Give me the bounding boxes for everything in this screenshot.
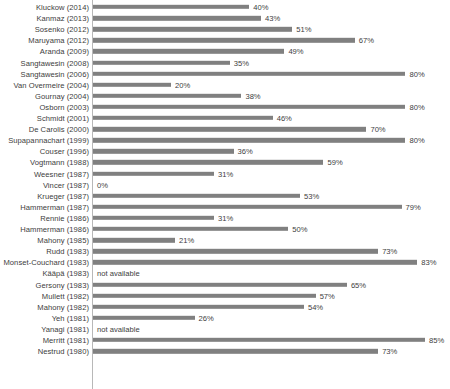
bar-row: Mahony (1985)21% [0,235,450,246]
category-label: Maruyama (2012) [28,36,89,45]
bar [93,216,214,220]
bar-row: Rennie (1986)31% [0,212,450,223]
bar-row: Gournay (2004)38% [0,90,450,101]
bar-row: Vogtmann (1988)59% [0,157,450,168]
bar-row: Van Overmeire (2004)20% [0,79,450,90]
bar [93,171,214,175]
bar-fill [93,282,347,286]
bar-fill [93,227,288,231]
category-label: Kluckow (2014) [36,3,89,12]
bar-fill [93,305,304,309]
bar-fill [93,260,417,264]
bar-row: Weesner (1987)31% [0,168,450,179]
bar-row: Kääpä (1983)not available [0,268,450,279]
value-label: 67% [359,36,374,45]
value-label: 50% [292,225,307,234]
category-label: Gournay (2004) [35,91,89,100]
value-label: 49% [288,47,303,56]
bar [93,282,347,286]
bar-fill [93,293,316,297]
bar-fill [93,338,425,342]
bar-fill [93,116,273,120]
horizontal-bar-chart: Kluckow (2014)40%Kanmaz (2013)43%Sosenko… [0,0,450,389]
value-label: not available [97,269,140,278]
bar [93,71,405,75]
value-label: 80% [409,136,424,145]
category-label: Yanagi (1981) [41,324,89,333]
plot-area: Kluckow (2014)40%Kanmaz (2013)43%Sosenko… [0,0,450,389]
bar-fill [93,71,405,75]
bar [93,227,288,231]
category-label: Yeh (1981) [52,313,89,322]
value-label: 70% [370,125,385,134]
bar [93,316,195,320]
bar-fill [93,249,378,253]
bar-row: Couser (1996)36% [0,146,450,157]
value-label: 53% [304,191,319,200]
category-label: Weesner (1987) [34,169,89,178]
bar-row: Sosenko (2012)51% [0,24,450,35]
bar-fill [93,105,405,109]
bar-row: Maruyama (2012)67% [0,35,450,46]
category-label: Van Overmeire (2004) [13,80,89,89]
bar [93,138,405,142]
category-label: Kanmaz (2013) [36,14,89,23]
bar [93,293,316,297]
bar-row: Yanagi (1981)not available [0,323,450,334]
bar-row: Kluckow (2014)40% [0,2,450,13]
bar-row: De Carolis (2000)70% [0,124,450,135]
bar [93,305,304,309]
category-label: Osborn (2003) [39,102,89,111]
bar-fill [93,149,234,153]
bar [93,249,378,253]
bar-fill [93,194,300,198]
value-label: 26% [199,313,214,322]
value-label: 57% [320,291,335,300]
bar-row: Yeh (1981)26% [0,312,450,323]
category-label: Merritt (1981) [43,336,89,345]
bar-row: Monset-Couchard (1983)83% [0,257,450,268]
category-label: Rennie (1986) [40,213,89,222]
value-label: 80% [409,69,424,78]
category-label: Hammerman (1986) [20,225,89,234]
value-label: 54% [308,302,323,311]
bar [93,349,378,353]
value-label: 51% [296,25,311,34]
value-label: not available [97,324,140,333]
bar [93,38,355,42]
category-label: Rudd (1983) [46,247,89,256]
bar-fill [93,94,241,98]
bar-fill [93,5,249,9]
bar [93,60,230,64]
bar [93,160,323,164]
category-label: Vogtmann (1988) [30,158,89,167]
bar-fill [93,205,402,209]
bar-row: Mahony (1982)54% [0,301,450,312]
value-label: 85% [429,336,444,345]
bar-fill [93,160,323,164]
bar-fill [93,138,405,142]
bar-fill [93,83,171,87]
value-label: 59% [327,158,342,167]
bar-row: Supapannachart (1999)80% [0,135,450,146]
category-label: Gersony (1983) [36,280,89,289]
bar [93,16,261,20]
bar-fill [93,60,230,64]
category-label: Krueger (1987) [37,191,89,200]
bar-fill [93,316,195,320]
value-label: 46% [277,114,292,123]
value-label: 36% [238,147,253,156]
bar [93,338,425,342]
value-label: 73% [382,347,397,356]
bar [93,83,171,87]
category-label: Mahony (1985) [37,236,89,245]
bar-fill [93,27,292,31]
bar [93,149,234,153]
bar-row: Mullett (1982)57% [0,290,450,301]
bar-row: Gersony (1983)65% [0,279,450,290]
bar [93,49,284,53]
bar [93,205,402,209]
value-label: 79% [406,202,421,211]
bar-row: Nestrud (1980)73% [0,346,450,357]
value-label: 80% [409,102,424,111]
